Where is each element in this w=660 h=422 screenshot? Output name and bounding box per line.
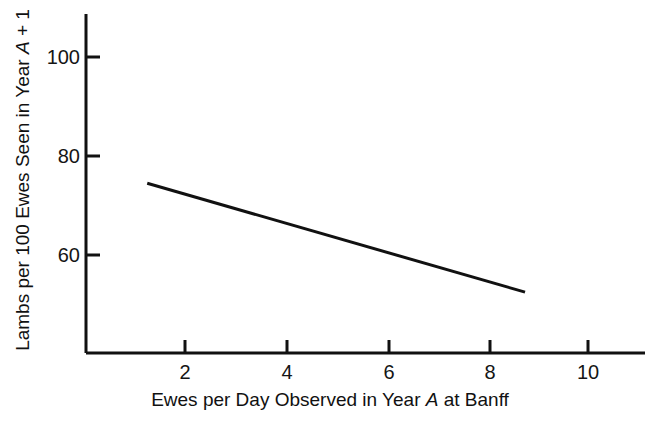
x-tick-label-6: 6 — [383, 362, 394, 382]
y-axis-title: Lambs per 100 Ewes Seen in Year A + 1 — [13, 9, 32, 351]
y-axis-title-after: + 1 — [12, 9, 33, 41]
x-tick-label-2: 2 — [179, 362, 190, 382]
y-axis-title-before: Lambs per 100 Ewes Seen in Year — [12, 54, 33, 351]
y-axis-title-italic-a: A — [12, 41, 33, 54]
x-axis-title-italic-a: A — [426, 389, 439, 410]
chart-figure: 100 80 60 2 4 6 8 10 Ewes per Day Observ… — [0, 0, 660, 422]
x-axis-title-after: at Banff — [438, 389, 508, 410]
x-tick-label-10: 10 — [577, 362, 599, 382]
y-axis-title-wrap: Lambs per 100 Ewes Seen in Year A + 1 — [0, 0, 44, 360]
x-axis-title: Ewes per Day Observed in Year A at Banff — [0, 390, 660, 409]
x-tick-label-4: 4 — [281, 362, 292, 382]
x-axis-title-before: Ewes per Day Observed in Year — [151, 389, 426, 410]
x-tick-label-8: 8 — [484, 362, 495, 382]
data-line-regression — [147, 183, 525, 292]
plot-area — [0, 0, 660, 422]
